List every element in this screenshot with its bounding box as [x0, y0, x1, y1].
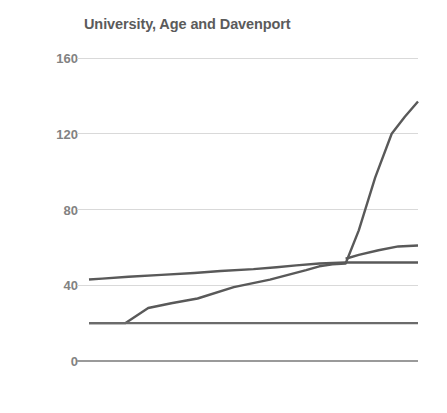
plot-area: [0, 0, 447, 413]
series-line-university: [89, 263, 418, 280]
series-line-davenport: [89, 102, 418, 324]
series-layer: [89, 102, 418, 324]
series-line-age: [346, 245, 418, 258]
gridlines: [77, 58, 418, 361]
chart-container: University, Age and Davenport 0408012016…: [0, 0, 447, 413]
